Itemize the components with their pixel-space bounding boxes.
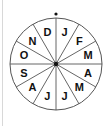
month-label: F xyxy=(76,35,83,47)
month-label: A xyxy=(84,67,92,79)
center-hub xyxy=(54,62,58,66)
month-label: M xyxy=(75,81,84,93)
month-label: J xyxy=(62,26,68,38)
month-label: N xyxy=(29,35,37,47)
month-label: S xyxy=(20,67,27,79)
top-marker-dot xyxy=(54,12,57,15)
month-label: J xyxy=(44,90,50,102)
month-label: M xyxy=(83,49,92,61)
month-label: O xyxy=(20,49,29,61)
month-label: J xyxy=(62,90,68,102)
month-wheel-diagram: J F M A M J J A S O N D xyxy=(0,0,110,126)
month-label: A xyxy=(29,81,37,93)
month-label: D xyxy=(43,26,51,38)
